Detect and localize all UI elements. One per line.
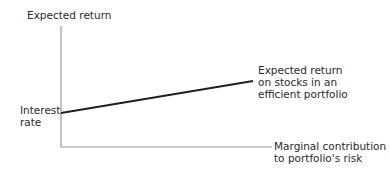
x-axis-label-line2: to portfolio's risk: [274, 152, 386, 164]
x-axis-label: Marginal contribution to portfolio's ris…: [274, 140, 386, 164]
line-label-line2: on stocks in an: [258, 76, 348, 88]
intercept-label: Interest rate: [20, 104, 60, 128]
line-label-line3: efficient portfolio: [258, 88, 348, 100]
y-axis-label: Expected return: [27, 9, 111, 21]
intercept-label-line1: Interest: [20, 104, 60, 116]
line-label-line1: Expected return: [258, 64, 348, 76]
x-axis-label-line1: Marginal contribution: [274, 140, 386, 152]
line-label: Expected return on stocks in an efficien…: [258, 64, 348, 100]
intercept-label-line2: rate: [20, 116, 60, 128]
expected-return-line: [61, 81, 253, 113]
